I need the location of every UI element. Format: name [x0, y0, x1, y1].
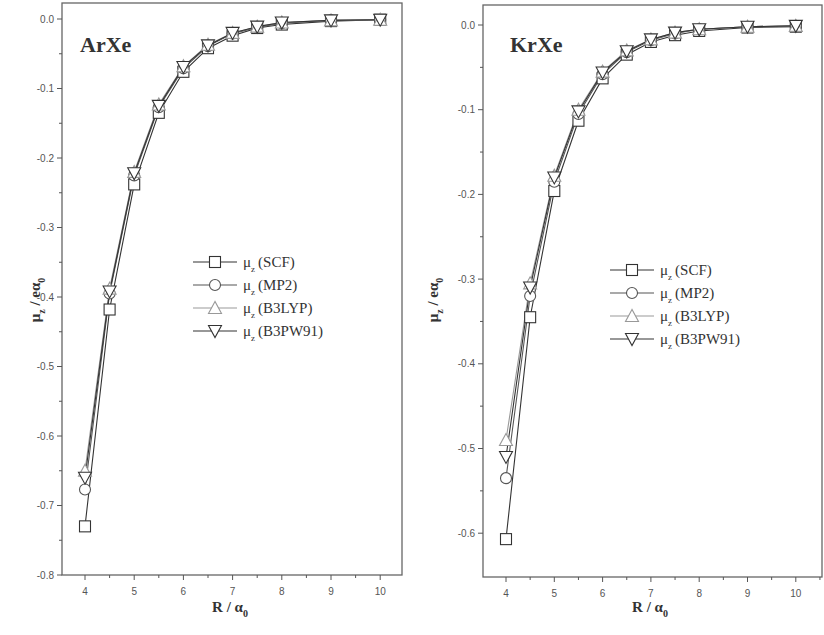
legend-item: μz(SCF) — [610, 262, 712, 282]
y-tick-label: -0.1 — [458, 104, 476, 115]
x-tick-label: 9 — [328, 586, 334, 597]
square-marker-icon — [80, 521, 91, 532]
y-tick-label: -0.2 — [37, 153, 55, 164]
circle-marker-icon — [210, 280, 221, 291]
legend-label: μz(B3PW91) — [243, 323, 323, 343]
y-tick-label: -0.3 — [37, 222, 55, 233]
legend: μz(SCF)μz(MP2)μz(B3LYP)μz(B3PW91) — [193, 254, 323, 343]
series-line — [506, 26, 796, 457]
triangle-up-marker-icon — [500, 434, 513, 446]
legend: μz(SCF)μz(MP2)μz(B3LYP)μz(B3PW91) — [610, 262, 740, 351]
x-tick-label: 7 — [648, 588, 654, 599]
x-tick-label: 9 — [745, 588, 751, 599]
x-tick-label: 10 — [790, 588, 802, 599]
chart-title: ArXe — [80, 32, 132, 57]
chart-arxe: 0.0-0.1-0.2-0.3-0.4-0.5-0.6-0.7-0.845678… — [0, 0, 410, 635]
series-group — [79, 13, 387, 532]
series-line — [85, 20, 380, 471]
chart-krxe: 0.0-0.1-0.2-0.3-0.4-0.5-0.645678910KrXeμ… — [410, 0, 824, 635]
x-tick-label: 8 — [696, 588, 702, 599]
square-marker-icon — [525, 312, 536, 323]
square-marker-icon — [501, 534, 512, 545]
x-axis-title: R / α0 — [632, 599, 668, 619]
y-tick-label: -0.1 — [37, 83, 55, 94]
series-line — [85, 20, 380, 478]
x-tick-label: 8 — [279, 586, 285, 597]
legend-item: μz(B3LYP) — [193, 300, 312, 320]
square-marker-icon — [210, 257, 221, 268]
y-tick-label: -0.8 — [37, 570, 55, 581]
triangle-down-marker-icon — [500, 451, 513, 463]
legend-item: μz(MP2) — [610, 285, 714, 305]
y-tick-label: -0.5 — [37, 361, 55, 372]
y-tick-label: -0.7 — [37, 500, 55, 511]
circle-marker-icon — [80, 484, 91, 495]
legend-label: μz(SCF) — [243, 254, 295, 274]
y-tick-label: -0.3 — [458, 274, 476, 285]
square-marker-icon — [627, 265, 638, 276]
chart-panel-arxe: 0.0-0.1-0.2-0.3-0.4-0.5-0.6-0.7-0.845678… — [0, 0, 410, 635]
y-tick-label: 0.0 — [40, 14, 54, 25]
y-tick-label: -0.5 — [458, 443, 476, 454]
series-line — [506, 26, 796, 440]
circle-marker-icon — [501, 473, 512, 484]
series-line — [85, 20, 380, 490]
legend-item: μz(B3PW91) — [610, 331, 740, 351]
x-tick-label: 4 — [503, 588, 509, 599]
y-tick-label: -0.4 — [458, 358, 476, 369]
x-tick-label: 4 — [82, 586, 88, 597]
x-tick-label: 6 — [181, 586, 187, 597]
x-axis-title: R / α0 — [212, 599, 248, 619]
y-axis-title: μz / eα0 — [425, 278, 445, 323]
series-line — [506, 27, 796, 539]
series-group — [500, 19, 803, 544]
x-axis: 45678910 — [503, 577, 820, 599]
legend-label: μz(B3LYP) — [660, 308, 729, 328]
x-tick-label: 5 — [131, 586, 137, 597]
legend-item: μz(B3LYP) — [610, 308, 729, 328]
legend-item: μz(B3PW91) — [193, 323, 323, 343]
legend-label: μz(B3PW91) — [660, 331, 740, 351]
legend-label: μz(B3LYP) — [243, 300, 312, 320]
series-line — [506, 26, 796, 478]
plot-frame — [483, 5, 822, 577]
circle-marker-icon — [627, 288, 638, 299]
legend-label: μz(MP2) — [243, 277, 297, 297]
legend-label: μz(MP2) — [660, 285, 714, 305]
legend-label: μz(SCF) — [660, 262, 712, 282]
x-tick-label: 5 — [552, 588, 558, 599]
legend-item: μz(SCF) — [193, 254, 295, 274]
y-tick-label: 0.0 — [461, 20, 475, 31]
legend-item: μz(MP2) — [193, 277, 297, 297]
y-tick-label: -0.2 — [458, 189, 476, 200]
x-axis: 45678910 — [82, 575, 386, 597]
x-tick-label: 6 — [600, 588, 606, 599]
chart-title: KrXe — [510, 32, 563, 57]
series-line — [85, 20, 380, 527]
square-marker-icon — [104, 304, 115, 315]
y-axis: 0.0-0.1-0.2-0.3-0.4-0.5-0.6 — [458, 20, 483, 539]
chart-panel-krxe: 0.0-0.1-0.2-0.3-0.4-0.5-0.645678910KrXeμ… — [410, 0, 824, 635]
x-tick-label: 10 — [375, 586, 387, 597]
y-tick-label: -0.6 — [37, 431, 55, 442]
x-tick-label: 7 — [230, 586, 236, 597]
y-tick-label: -0.6 — [458, 528, 476, 539]
